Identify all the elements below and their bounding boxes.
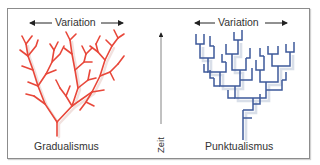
punctualism-title: Punktualismus [205, 140, 273, 152]
gradualism-tree-icon [20, 30, 124, 137]
gradualism-title: Gradualismus [34, 140, 99, 152]
left-variation-label: Variation [52, 16, 99, 28]
time-axis-label: Zeit [155, 137, 166, 153]
right-variation-label: Variation [215, 16, 262, 28]
punctualism-tree-icon [196, 30, 294, 141]
